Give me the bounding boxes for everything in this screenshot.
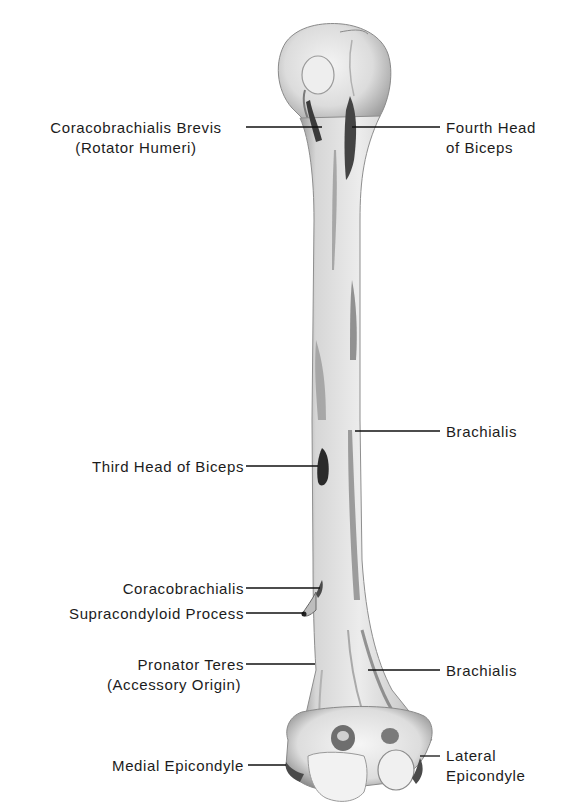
- label-coracobrachialis-brevis: Coracobrachialis Brevis (Rotator Humeri): [28, 118, 244, 158]
- label-line: Medial Epicondyle: [60, 756, 244, 776]
- label-pronator-teres: Pronator Teres (Accessory Origin): [90, 655, 258, 695]
- label-line: Brachialis: [446, 661, 517, 681]
- label-line: Third Head of Biceps: [52, 457, 244, 477]
- label-line: Coracobrachialis: [60, 579, 244, 599]
- label-third-head-biceps: Third Head of Biceps: [52, 457, 244, 477]
- humeral-head: [278, 24, 391, 128]
- label-brachialis-lower: Brachialis: [446, 661, 517, 681]
- humerus-diagram: Coracobrachialis Brevis (Rotator Humeri)…: [0, 0, 572, 807]
- label-line: Coracobrachialis Brevis: [28, 118, 244, 138]
- label-line: Fourth Head: [446, 118, 536, 138]
- label-medial-epicondyle: Medial Epicondyle: [60, 756, 244, 776]
- label-brachialis-upper: Brachialis: [446, 422, 517, 442]
- label-line: Lateral: [446, 746, 525, 766]
- label-line: Brachialis: [446, 422, 517, 442]
- label-coracobrachialis: Coracobrachialis: [60, 579, 244, 599]
- distal-humerus: [286, 706, 432, 801]
- label-supracondyloid-process: Supracondyloid Process: [20, 604, 244, 624]
- label-line: (Accessory Origin): [90, 675, 258, 695]
- label-line: Pronator Teres: [90, 655, 258, 675]
- label-line: of Biceps: [446, 138, 536, 158]
- label-fourth-head-biceps: Fourth Head of Biceps: [446, 118, 536, 158]
- label-lateral-epicondyle: Lateral Epicondyle: [446, 746, 525, 786]
- label-line: Epicondyle: [446, 766, 525, 786]
- label-line: (Rotator Humeri): [28, 138, 244, 158]
- label-line: Supracondyloid Process: [20, 604, 244, 624]
